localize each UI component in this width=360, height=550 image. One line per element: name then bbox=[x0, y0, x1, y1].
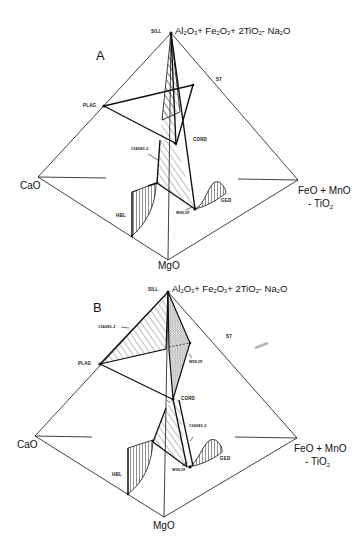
panel-a-sill-label: SILL bbox=[151, 30, 162, 35]
panel-a-feo-label: FeO + MnO bbox=[298, 186, 351, 196]
panel-a-plag-label: PLAG bbox=[83, 104, 96, 109]
panel-a-hbl-label: HBL bbox=[116, 214, 126, 219]
panel-b-hbl-field bbox=[128, 440, 153, 494]
panel-b-stippled-field bbox=[168, 292, 190, 399]
panel-a-diagram bbox=[38, 31, 298, 260]
panel-a-cord-label: CORD bbox=[193, 138, 207, 143]
panel-b-sample-134083-upper-label: 134083-2 bbox=[98, 326, 116, 330]
panel-b-lower-hatched-field bbox=[153, 399, 187, 467]
panel-a-cao-label: CaO bbox=[20, 181, 41, 191]
scan-smudge bbox=[255, 343, 268, 348]
panel-a-ged-label: GED bbox=[221, 199, 231, 204]
panel-b-hbl-label: HBL bbox=[112, 473, 122, 478]
panel-a-tio2-label: - TiO2 bbox=[308, 199, 333, 210]
panel-b-diagram bbox=[35, 290, 297, 517]
panel-b-plag-label: PLAG bbox=[78, 362, 91, 367]
panel-a-apex-label: Al2O3+ Fe2O3+ 2TiO2- Na2O bbox=[175, 26, 290, 37]
panel-b-sample-w95jx-upper-label: W95JX bbox=[189, 361, 202, 365]
panel-b-label: B bbox=[93, 301, 102, 314]
panel-b-sample-w95jx-lower-label: W95JX bbox=[172, 469, 185, 473]
panel-a-ged-field bbox=[195, 182, 226, 209]
panel-b-tio2-label: - TiO2 bbox=[305, 457, 330, 468]
panel-b-mgo-label: MgO bbox=[153, 521, 175, 531]
panel-b-sample-134083-lower-label: 134083-2 bbox=[189, 425, 207, 429]
panel-a-label: A bbox=[96, 49, 105, 62]
panel-b-apex-label: Al2O3+ Fe2O3+ 2TiO2- Na2O bbox=[172, 284, 287, 295]
panel-b-cao-label: CaO bbox=[17, 440, 38, 450]
panel-a-sample-134083-label: 134083-2 bbox=[131, 148, 149, 152]
panel-b-feo-label: FeO + MnO bbox=[294, 444, 347, 454]
panel-b-ged-field bbox=[188, 439, 222, 467]
panel-a-sample-w95jx-label: W95JX bbox=[176, 212, 189, 216]
panel-b-st-label: ST bbox=[226, 335, 232, 340]
panel-a-st-label: ST bbox=[216, 78, 222, 83]
panel-b-sill-label: SILL bbox=[148, 288, 159, 293]
panel-a-mgo-label: MgO bbox=[158, 261, 180, 271]
panel-b-cord-label: CORD bbox=[181, 397, 195, 402]
panel-b-ged-label: GED bbox=[220, 457, 230, 462]
panel-a-lower-hatched-field bbox=[157, 33, 195, 209]
